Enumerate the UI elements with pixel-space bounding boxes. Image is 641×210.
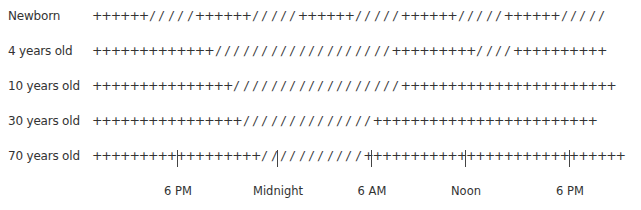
tick-label: Midnight [253,184,303,198]
awake-mark: + [232,6,241,26]
awake-mark: + [588,111,597,131]
awake-mark: + [382,146,391,166]
awake-mark: + [578,146,587,166]
awake-mark: + [101,41,110,61]
row-label: 4 years old [8,41,72,61]
awake-mark: + [494,76,503,96]
awake-mark: + [541,146,550,166]
chart-row: 10 years old+++++++++++++++/////////////… [0,76,641,96]
awake-mark: + [401,6,410,26]
awake-mark: + [485,146,494,166]
awake-mark: + [410,6,419,26]
awake-mark: + [129,76,138,96]
awake-mark: + [429,6,438,26]
awake-mark: + [92,41,101,61]
awake-mark: + [503,146,512,166]
awake-mark: + [101,76,110,96]
row-label: 70 years old [8,146,80,166]
awake-mark: + [148,111,157,131]
awake-mark: + [531,76,540,96]
awake-mark: + [223,6,232,26]
axis-tick [371,150,372,167]
awake-mark: + [157,111,166,131]
awake-mark: + [204,41,213,61]
awake-mark: + [204,111,213,131]
awake-mark: + [447,146,456,166]
awake-mark: + [401,111,410,131]
awake-mark: + [578,76,587,96]
awake-mark: + [475,146,484,166]
awake-mark: + [214,111,223,131]
awake-mark: + [195,76,204,96]
awake-mark: + [223,111,232,131]
awake-mark: + [466,146,475,166]
axis-tick [569,150,570,167]
awake-mark: + [214,6,223,26]
awake-mark: + [120,41,129,61]
awake-mark: + [176,41,185,61]
awake-mark: + [129,146,138,166]
awake-mark: + [139,146,148,166]
awake-mark: + [457,111,466,131]
awake-mark: + [475,76,484,96]
awake-mark: + [410,41,419,61]
awake-mark: + [204,76,213,96]
awake-mark: + [316,6,325,26]
awake-mark: + [569,41,578,61]
awake-mark: + [447,41,456,61]
awake-mark: + [335,6,344,26]
awake-mark: + [223,146,232,166]
awake-mark: + [513,111,522,131]
awake-mark: + [167,146,176,166]
awake-mark: + [522,76,531,96]
awake-mark: + [148,41,157,61]
awake-mark: + [129,41,138,61]
awake-mark: + [457,41,466,61]
awake-mark: + [419,6,428,26]
awake-mark: + [560,111,569,131]
awake-mark: + [606,76,615,96]
awake-mark: + [447,111,456,131]
awake-mark: + [167,41,176,61]
awake-mark: + [129,6,138,26]
awake-mark: + [522,6,531,26]
awake-mark: + [214,146,223,166]
awake-mark: + [157,41,166,61]
awake-mark: + [494,146,503,166]
awake-mark: + [139,111,148,131]
awake-mark: + [373,111,382,131]
awake-mark: + [597,146,606,166]
awake-mark: + [541,111,550,131]
awake-mark: + [92,146,101,166]
chart-row: 30 years old++++++++++++++++////////////… [0,111,641,131]
awake-mark: + [457,76,466,96]
axis-tick [177,150,178,167]
awake-mark: + [419,41,428,61]
row-label: 30 years old [8,111,80,131]
awake-mark: + [186,146,195,166]
awake-mark: + [606,146,615,166]
awake-mark: + [494,111,503,131]
awake-mark: + [578,111,587,131]
awake-mark: + [157,146,166,166]
awake-mark: + [401,76,410,96]
awake-mark: + [120,76,129,96]
awake-mark: + [569,111,578,131]
awake-mark: + [513,41,522,61]
awake-mark: + [120,146,129,166]
awake-mark: + [410,146,419,166]
awake-mark: + [307,6,316,26]
awake-mark: + [326,6,335,26]
awake-mark: + [401,41,410,61]
awake-mark: + [204,146,213,166]
awake-mark: + [157,76,166,96]
awake-mark: + [560,146,569,166]
awake-mark: + [531,41,540,61]
awake-mark: + [438,146,447,166]
awake-mark: + [419,146,428,166]
awake-mark: + [513,146,522,166]
awake-mark: + [111,6,120,26]
awake-mark: + [111,41,120,61]
awake-mark: + [597,41,606,61]
awake-mark: + [522,146,531,166]
